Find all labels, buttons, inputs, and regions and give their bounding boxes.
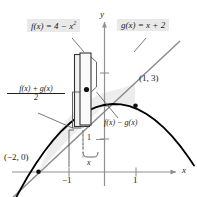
brace-x	[83, 152, 98, 157]
label-point-upper: (1, 3)	[139, 73, 159, 83]
x-axis-arrow	[171, 170, 177, 175]
tick-label-x--1: −1	[62, 175, 72, 185]
axis-label-x: x	[182, 165, 186, 175]
label-x-brace: x	[87, 158, 91, 167]
rectangle-midpoint-dot	[84, 87, 89, 92]
label-midpoint-fraction: f(x) + g(x) 2	[7, 85, 65, 103]
label-f-exponent: 2	[73, 20, 76, 26]
label-point-lower: (−2, 0)	[4, 152, 29, 162]
label-g-equation: g(x) = x + 2	[117, 19, 169, 31]
label-height-difference: f(x) − g(x)	[104, 118, 137, 127]
label-midpoint-denominator: 2	[7, 94, 65, 102]
tick-label-x-1: 1	[133, 175, 138, 185]
y-axis-arrow	[102, 22, 107, 28]
intersection-dot-upper	[133, 104, 138, 109]
axis-label-y: y	[100, 9, 104, 19]
leader-height-bracket	[91, 57, 97, 92]
x-measure-guides	[83, 126, 104, 158]
representative-rectangle	[75, 53, 92, 127]
curve-f-parabola	[11, 104, 195, 197]
figure-canvas: f(x) = 4 − x2 g(x) = x + 2 f(x) + g(x) 2…	[0, 0, 197, 197]
intersection-dot-lower	[36, 170, 41, 175]
leader-f-label	[72, 38, 84, 52]
label-f-equation-text: f(x) = 4 − x	[31, 21, 73, 31]
label-f-equation: f(x) = 4 − x2	[27, 19, 80, 32]
label-one-measure: 1	[87, 133, 91, 142]
leader-g-label	[134, 38, 146, 52]
